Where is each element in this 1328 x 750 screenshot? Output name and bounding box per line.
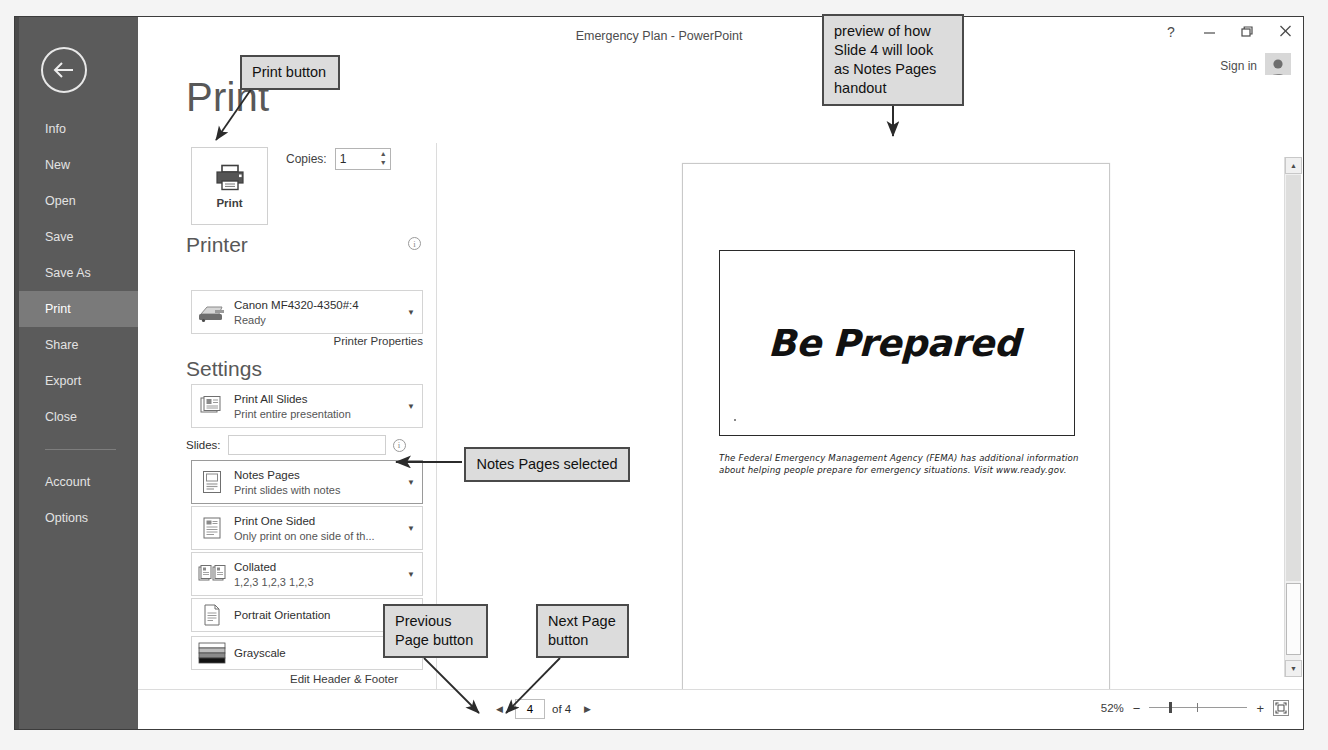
slides-info-icon[interactable]: i	[393, 439, 406, 452]
sidebar-item-print[interactable]: Print	[15, 291, 138, 327]
next-page-callout: Next Page button	[536, 604, 629, 658]
sidebar-divider	[45, 449, 116, 450]
sidebar-item-save-as[interactable]: Save As	[15, 255, 138, 291]
sidebar-item-account[interactable]: Account	[15, 464, 138, 500]
chevron-down-icon[interactable]: ▼	[400, 524, 422, 533]
spin-down-icon[interactable]: ▼	[380, 159, 387, 167]
fit-slide-icon[interactable]	[1273, 700, 1289, 716]
setting-subtitle: Print entire presentation	[234, 407, 400, 422]
collated-icon	[192, 563, 232, 585]
printer-text: Canon MF4320-4350#:4 Ready	[232, 293, 400, 332]
sidebar-item-label: Export	[45, 374, 81, 388]
copies-spin-buttons[interactable]: ▲ ▼	[380, 150, 387, 167]
slides-label: Slides:	[186, 439, 221, 451]
setting-subtitle: Only print on one side of th...	[234, 529, 400, 544]
preview-scrollbar[interactable]: ▲ ▼	[1284, 157, 1301, 677]
preview-slide-thumbnail: Be Prepared	[719, 250, 1075, 436]
zoom-controls: 52% − +	[1101, 700, 1289, 716]
notes-page-icon	[192, 470, 232, 494]
sidebar-item-close[interactable]: Close	[15, 399, 138, 435]
page-count-label: of 4	[552, 703, 571, 715]
setting-title: Print One Sided	[234, 513, 400, 529]
preview-callout: preview of how Slide 4 will look as Note…	[822, 14, 964, 106]
sidebar-item-export[interactable]: Export	[15, 363, 138, 399]
powerpoint-window: Emergency Plan - PowerPoint ?	[14, 16, 1304, 730]
help-icon[interactable]: ?	[1163, 25, 1179, 39]
sidebar-item-open[interactable]: Open	[15, 183, 138, 219]
zoom-out-button[interactable]: −	[1133, 702, 1141, 715]
setting-orientation-text: Portrait Orientation	[232, 603, 400, 627]
sidebar-items: Info New Open Save Save As Print Share E…	[15, 111, 138, 536]
restore-icon[interactable]	[1239, 25, 1255, 39]
setting-layout-dropdown[interactable]: Notes Pages Print slides with notes ▼	[191, 460, 423, 504]
print-button-label: Print	[216, 197, 242, 209]
signin-label: Sign in	[1220, 59, 1257, 73]
slides-stack-icon	[192, 395, 232, 417]
back-button[interactable]	[41, 47, 87, 93]
copies-stepper[interactable]: ▲ ▼	[335, 148, 391, 170]
printer-device-icon	[192, 301, 232, 323]
current-page-input[interactable]	[515, 699, 545, 719]
notes-pages-callout: Notes Pages selected	[464, 447, 630, 482]
zoom-slider-handle[interactable]	[1169, 702, 1172, 713]
zoom-in-button[interactable]: +	[1256, 702, 1264, 715]
window-controls: ?	[1163, 25, 1293, 39]
slide-marker-dot	[734, 419, 736, 421]
printer-dropdown[interactable]: Canon MF4320-4350#:4 Ready ▼	[191, 290, 423, 334]
sidebar-item-save[interactable]: Save	[15, 219, 138, 255]
copies-control: Copies: ▲ ▼	[286, 148, 391, 170]
portrait-icon	[192, 603, 232, 627]
chevron-down-icon[interactable]: ▼	[400, 402, 422, 411]
minimize-icon[interactable]	[1201, 25, 1217, 39]
zoom-level-label[interactable]: 52%	[1101, 702, 1124, 714]
chevron-down-icon[interactable]: ▼	[400, 308, 422, 317]
printer-properties-link[interactable]: Printer Properties	[138, 335, 436, 347]
zoom-slider[interactable]	[1149, 701, 1247, 715]
slides-range-row: Slides: i	[186, 435, 406, 455]
copies-input[interactable]	[336, 149, 374, 169]
sidebar-item-label: Account	[45, 475, 90, 489]
print-button[interactable]: Print	[191, 147, 268, 225]
setting-sides-dropdown[interactable]: Print One Sided Only print on one side o…	[191, 506, 423, 550]
scroll-down-icon[interactable]: ▼	[1285, 660, 1302, 677]
printer-name: Canon MF4320-4350#:4	[234, 297, 400, 313]
zoom-slider-track	[1149, 707, 1247, 708]
preview-notes-text: The Federal Emergency Management Agency …	[719, 452, 1079, 476]
sidebar-item-label: Close	[45, 410, 77, 424]
scrollbar-thumb[interactable]	[1286, 583, 1301, 655]
sidebar-item-label: Options	[45, 511, 88, 525]
sidebar-item-info[interactable]: Info	[15, 111, 138, 147]
copies-label: Copies:	[286, 152, 327, 166]
slide-title-text: Be Prepared	[770, 322, 1024, 365]
status-bar: ◀ of 4 ▶ 52% − +	[138, 689, 1303, 729]
setting-collation-text: Collated 1,2,3 1,2,3 1,2,3	[232, 555, 400, 594]
zoom-slider-tick	[1197, 703, 1198, 712]
one-sided-icon	[192, 516, 232, 540]
close-icon[interactable]	[1277, 25, 1293, 39]
printer-icon	[215, 164, 245, 191]
printer-status: Ready	[234, 313, 400, 328]
sidebar-item-label: Save As	[45, 266, 91, 280]
previous-page-button[interactable]: ◀	[490, 700, 508, 718]
scroll-up-icon[interactable]: ▲	[1285, 157, 1302, 174]
next-page-button[interactable]: ▶	[578, 700, 596, 718]
page-navigation: ◀ of 4 ▶	[490, 699, 596, 719]
printer-info-icon[interactable]: i	[408, 237, 421, 250]
previous-page-callout: Previous Page button	[383, 604, 488, 658]
sidebar-item-options[interactable]: Options	[15, 500, 138, 536]
sidebar-item-label: Open	[45, 194, 76, 208]
edit-header-footer-link[interactable]: Edit Header & Footer	[138, 673, 436, 685]
printer-section-title: Printer	[186, 233, 248, 257]
sidebar-item-new[interactable]: New	[15, 147, 138, 183]
print-button-callout: Print button	[240, 55, 340, 90]
setting-print-range-dropdown[interactable]: Print All Slides Print entire presentati…	[191, 384, 423, 428]
slides-input[interactable]	[228, 435, 386, 455]
setting-title: Collated	[234, 559, 400, 575]
setting-title: Notes Pages	[234, 467, 400, 483]
chevron-down-icon[interactable]: ▼	[400, 478, 422, 487]
scrollbar-track[interactable]	[1286, 175, 1301, 581]
setting-collation-dropdown[interactable]: Collated 1,2,3 1,2,3 1,2,3 ▼	[191, 552, 423, 596]
sidebar-item-share[interactable]: Share	[15, 327, 138, 363]
spin-up-icon[interactable]: ▲	[380, 150, 387, 158]
chevron-down-icon[interactable]: ▼	[400, 570, 422, 579]
